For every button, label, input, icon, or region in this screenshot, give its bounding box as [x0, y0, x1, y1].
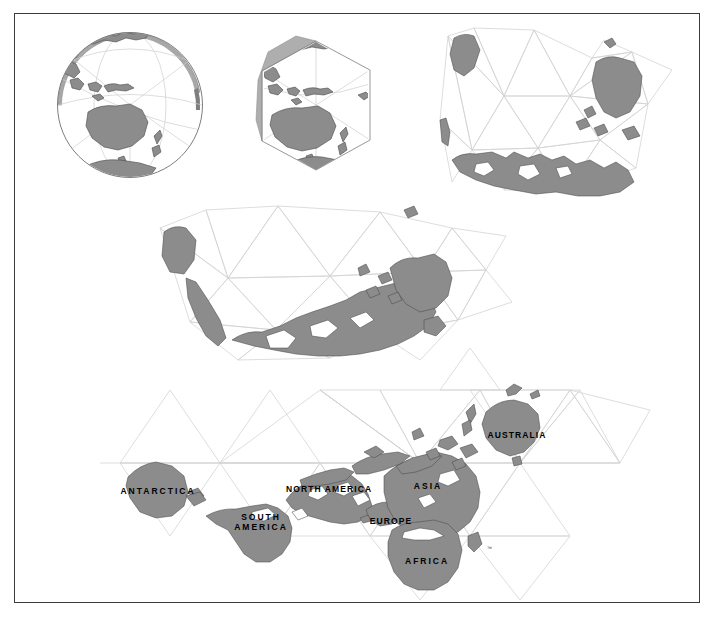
stage-4-further-unfolded — [160, 206, 512, 360]
figure-page: ANTARCTICA SOUTH AMERICA NORTH AMERICA E… — [0, 0, 716, 617]
stage-5-flat-dymaxion-map — [100, 348, 650, 600]
stage-4-landmasses — [162, 206, 452, 356]
stage-3-partially-unfolded — [440, 28, 672, 196]
stage-1-spherical-globe — [58, 31, 203, 180]
flat-map-landmasses — [126, 384, 540, 590]
flat-map-triangle-grid — [100, 348, 650, 600]
trademark-symbol: ™ — [487, 545, 492, 551]
stage-3-landmasses — [440, 34, 642, 196]
stage-2-faceted-icosahedron — [256, 36, 370, 174]
dymaxion-unfolding-diagram — [0, 0, 716, 617]
